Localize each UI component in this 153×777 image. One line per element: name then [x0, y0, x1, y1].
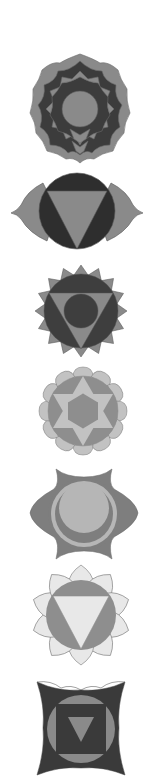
throat-chakra-icon	[35, 264, 127, 358]
root-chakra-icon	[33, 680, 129, 777]
image-title: Seven Chakra Symbols	[0, 0, 1, 1]
crown-chakra-icon	[28, 50, 132, 164]
third-eye-chakra-icon	[10, 170, 144, 252]
heart-chakra-icon	[38, 365, 128, 457]
solar-plexus-chakra-icon	[28, 563, 134, 667]
sacral-chakra-icon	[29, 463, 139, 563]
